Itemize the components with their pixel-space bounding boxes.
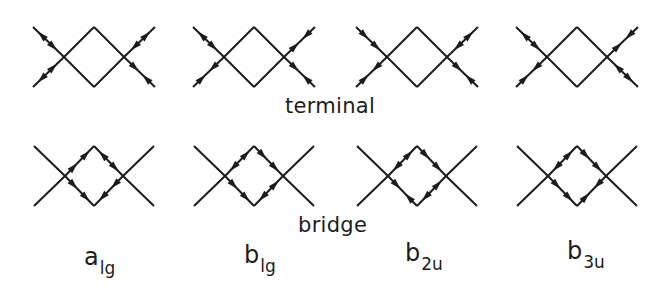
- terminal-label: terminal: [285, 94, 375, 118]
- subscript: lg: [260, 256, 276, 276]
- subscript: 3u: [583, 252, 605, 272]
- diamond-edge: [417, 27, 447, 57]
- diamond-edge: [547, 27, 577, 57]
- terminal-arm: [447, 57, 478, 87]
- diamond-edge: [64, 27, 94, 57]
- diamond-edge: [224, 27, 254, 57]
- bridge-arm: [606, 146, 637, 176]
- diamond-edge: [94, 57, 124, 87]
- terminal-arm: [124, 27, 155, 57]
- symbol: b: [244, 241, 259, 269]
- bridge-arm: [517, 146, 548, 176]
- subscript: lg: [100, 258, 116, 278]
- bridge-arm: [283, 176, 314, 206]
- diamond-edge: [254, 27, 284, 57]
- symmetry-label-b2u: b2u: [405, 241, 443, 265]
- terminal-diagram-3: [516, 27, 638, 87]
- symmetry-label-a1g: alg: [84, 245, 115, 269]
- bridge-arm: [34, 146, 65, 176]
- bridge-arm: [194, 176, 225, 206]
- diamond-edge: [254, 57, 284, 87]
- terminal-arm: [33, 57, 64, 87]
- diamond-edge: [577, 27, 607, 57]
- terminal-diagram-2: [356, 27, 478, 87]
- diamond-edge: [547, 57, 577, 87]
- terminal-arm: [284, 57, 315, 87]
- symbol: b: [567, 237, 582, 265]
- terminal-arm: [33, 27, 64, 57]
- symbol: b: [405, 239, 420, 267]
- terminal-arm: [516, 57, 547, 87]
- symmetry-label-b1g: blg: [244, 243, 276, 267]
- bridge-arm: [283, 146, 314, 176]
- bridge-diagram-3: [517, 146, 637, 206]
- bridge-arm: [517, 176, 548, 206]
- terminal-arm: [356, 27, 387, 57]
- bridge-diagram-1: [194, 146, 314, 206]
- diamond-edge: [224, 57, 254, 87]
- bridge-arm: [194, 146, 225, 176]
- bridge-arm: [446, 176, 477, 206]
- terminal-diagram-1: [193, 27, 315, 87]
- bridge-arm: [123, 176, 154, 206]
- symbol: a: [84, 243, 99, 271]
- terminal-row: [33, 27, 638, 87]
- bridge-diagram-2: [357, 146, 477, 206]
- bridge-arm: [123, 146, 154, 176]
- subscript: 2u: [421, 254, 443, 274]
- terminal-arm: [124, 57, 155, 87]
- bridge-diagram-0: [34, 146, 154, 206]
- bridge-arm: [606, 176, 637, 206]
- bridge-arm: [357, 176, 388, 206]
- bridge-arm: [446, 146, 477, 176]
- bridge-arm: [357, 146, 388, 176]
- diamond-edge: [577, 57, 607, 87]
- terminal-arm: [516, 27, 547, 57]
- terminal-arm: [193, 27, 224, 57]
- diamond-edge: [387, 57, 417, 87]
- bridge-row: [34, 146, 637, 206]
- terminal-arm: [607, 57, 638, 87]
- symmetry-label-b3u: b3u: [567, 239, 605, 263]
- bridge-label: bridge: [298, 213, 367, 237]
- terminal-arm: [447, 27, 478, 57]
- diamond-edge: [387, 27, 417, 57]
- terminal-arm: [607, 27, 638, 57]
- diamond-edge: [64, 57, 94, 87]
- terminal-diagram-0: [33, 27, 155, 87]
- terminal-arm: [193, 57, 224, 87]
- bridge-arm: [34, 176, 65, 206]
- terminal-arm: [356, 57, 387, 87]
- diamond-edge: [417, 57, 447, 87]
- terminal-arm: [284, 27, 315, 57]
- diamond-edge: [94, 27, 124, 57]
